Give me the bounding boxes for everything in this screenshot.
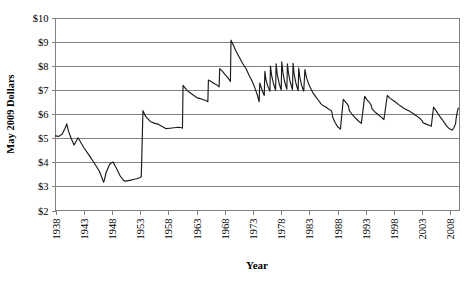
x-tick-label: 1978 <box>276 219 287 240</box>
x-axis-ticks: 1938194319481953195819631968197319781983… <box>51 211 456 240</box>
x-tick-label: 1973 <box>248 219 259 240</box>
y-gridlines <box>56 19 460 187</box>
y-tick-label: $8 <box>38 61 49 72</box>
x-tick-label: 1943 <box>79 219 90 240</box>
x-tick-label: 2003 <box>417 219 428 240</box>
y-tick-label: $3 <box>38 181 49 192</box>
y-axis-title-group: May 2009 Dollars <box>5 74 16 153</box>
line-chart: May 2009 Dollars $10$9$8$7$6$5$4$3$2 193… <box>0 0 474 293</box>
x-tick-label: 1963 <box>192 219 203 240</box>
x-tick-label: 1948 <box>107 219 118 240</box>
data-series-line <box>56 40 459 182</box>
y-tick-label: $10 <box>33 13 49 24</box>
y-tick-label: $6 <box>38 109 49 120</box>
x-tick-label: 1988 <box>333 219 344 240</box>
x-tick-label: 1993 <box>361 219 372 240</box>
x-tick-label: 1998 <box>389 219 400 240</box>
x-tick-label: 1938 <box>51 219 62 240</box>
y-tick-label: $7 <box>38 85 49 96</box>
chart-container: May 2009 Dollars $10$9$8$7$6$5$4$3$2 193… <box>0 0 474 293</box>
y-axis-ticks: $10$9$8$7$6$5$4$3$2 <box>33 13 56 217</box>
y-axis-title: May 2009 Dollars <box>5 74 16 153</box>
y-tick-label: $2 <box>38 206 49 217</box>
x-tick-label: 1968 <box>220 219 231 240</box>
y-tick-label: $9 <box>38 37 49 48</box>
x-tick-label: 1983 <box>304 219 315 240</box>
x-tick-label: 2008 <box>445 219 456 240</box>
x-tick-label: 1958 <box>163 219 174 240</box>
y-tick-label: $4 <box>38 157 49 168</box>
x-tick-label: 1953 <box>135 219 146 240</box>
y-tick-label: $5 <box>38 133 49 144</box>
x-axis-title: Year <box>246 259 268 271</box>
